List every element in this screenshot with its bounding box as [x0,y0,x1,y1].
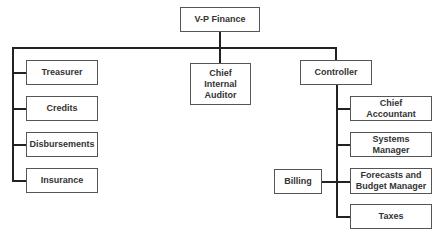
connector-left-trunk [12,47,14,181]
connector-forecasts [321,181,350,183]
box-taxes: Taxes [350,204,432,229]
connector-taxes [336,216,350,218]
box-controller: Controller [300,60,372,85]
box-chief-accountant: Chief Accountant [350,96,432,121]
box-systems-manager: Systems Manager [350,132,432,157]
connector-insurance [12,180,26,182]
box-vp-finance: V-P Finance [180,7,260,32]
box-disbursements: Disbursements [26,132,98,157]
connector-treasurer [12,72,26,74]
box-credits: Credits [26,96,98,121]
connector-controller-trunk [336,84,338,217]
box-insurance: Insurance [26,168,98,193]
box-chief-internal-auditor: Chief Internal Auditor [190,63,251,105]
connector-systems-manager [336,144,350,146]
connector-chief-accountant [336,108,350,110]
box-treasurer: Treasurer [26,60,98,85]
connector-controller-up [335,47,337,60]
connector-credits [12,108,26,110]
connector-disbursements [12,144,26,146]
connector-main-bar [12,47,337,49]
box-billing: Billing [274,169,322,194]
box-forecasts-budget-manager: Forecasts and Budget Manager [350,168,432,194]
connector-auditor [219,47,221,63]
